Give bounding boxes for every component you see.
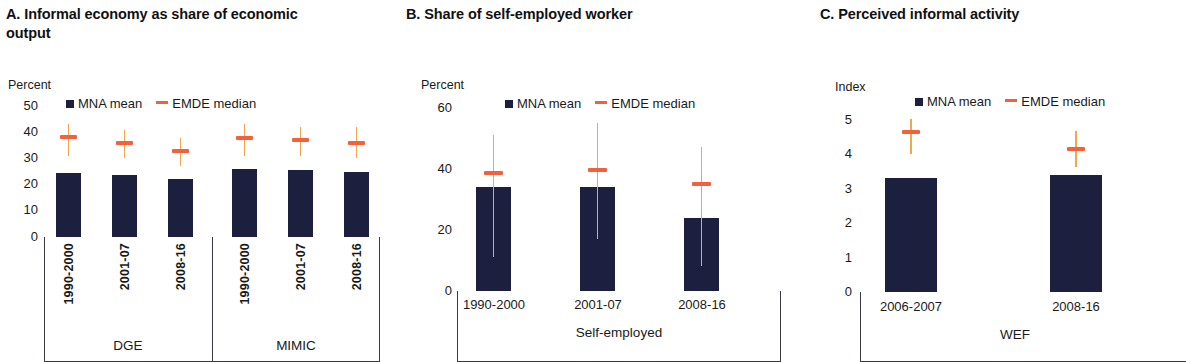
- panel-b-xlabel-1990-2000: 1990-2000: [463, 297, 525, 312]
- panel-b-whisker-2008-16: [701, 147, 702, 266]
- panel-a-bar-mimic-2008-16: [344, 172, 369, 237]
- panel-b-group-label-self-employed: Self-employed: [576, 325, 662, 340]
- panel-c-group-label-wef: WEF: [1000, 327, 1030, 342]
- panel-c-plot-area: 2006-2007 2008-16 WEF: [800, 0, 1186, 362]
- panel-a-xlabel-dge-2001-07: 2001-07: [118, 243, 132, 290]
- panel-a-median-dge-1990-2000: [60, 135, 77, 139]
- panel-b-plot-area: 1990-2000 2001-07 2008-16 Self-employed: [400, 0, 800, 362]
- panel-a-bar-mimic-2001-07: [288, 170, 313, 237]
- panel-a-median-mimic-2001-07: [292, 138, 309, 142]
- panel-a-median-mimic-2008-16: [348, 141, 365, 145]
- panel-a-xlabel-dge-1990-2000: 1990-2000: [62, 243, 76, 305]
- panel-c-median-2006-2007: [902, 130, 920, 134]
- panel-b-median-2001-07: [588, 168, 607, 172]
- panel-c-bar-2008-16: [1050, 175, 1102, 292]
- three-panel-bar-chart-figure: A. Informal economy as share of economic…: [0, 0, 1186, 362]
- panel-a-bar-dge-2008-16: [168, 179, 193, 237]
- panel-c-xlabel-2006-2007: 2006-2007: [880, 299, 942, 314]
- panel-a-xlabel-mimic-1990-2000: 1990-2000: [238, 243, 252, 305]
- panel-b-whisker-2001-07: [597, 123, 598, 239]
- panel-a-bar-dge-1990-2000: [56, 173, 81, 237]
- panel-c-bar-2006-2007: [885, 178, 937, 292]
- panel-c-median-2008-16: [1067, 147, 1085, 151]
- panel-b: B. Share of self-employed worker Percent…: [400, 0, 800, 362]
- panel-a-median-mimic-1990-2000: [236, 136, 253, 140]
- panel-b-median-1990-2000: [484, 171, 503, 175]
- panel-a-xlabel-mimic-2001-07: 2001-07: [294, 243, 308, 290]
- panel-a-plot-area: 1990-2000 2001-07 2008-16 1990-2000 2001…: [0, 0, 400, 362]
- panel-a: A. Informal economy as share of economic…: [0, 0, 400, 362]
- panel-a-xlabel-dge-2008-16: 2008-16: [174, 243, 188, 290]
- panel-c-xlabel-2008-16: 2008-16: [1052, 299, 1100, 314]
- panel-b-median-2008-16: [692, 182, 711, 186]
- panel-a-group-label-mimic: MIMIC: [276, 338, 316, 353]
- panel-a-whisker-mimic-1990-2000: [244, 124, 245, 155]
- panel-a-median-dge-2001-07: [116, 141, 133, 145]
- panel-c: C. Perceived informal activity Index MNA…: [800, 0, 1186, 362]
- panel-a-group-label-dge: DGE: [113, 338, 142, 353]
- panel-b-whisker-1990-2000: [493, 135, 494, 257]
- panel-a-whisker-dge-1990-2000: [68, 124, 69, 155]
- panel-c-whisker-2006-2007: [910, 119, 911, 154]
- panel-a-median-dge-2008-16: [172, 149, 189, 153]
- panel-b-xlabel-2001-07: 2001-07: [574, 297, 622, 312]
- panel-b-xlabel-2008-16: 2008-16: [678, 297, 726, 312]
- panel-a-bar-mimic-1990-2000: [232, 169, 257, 237]
- panel-a-xlabel-mimic-2008-16: 2008-16: [350, 243, 364, 290]
- panel-a-bar-dge-2001-07: [112, 175, 137, 237]
- panel-a-group-divider: [212, 237, 213, 362]
